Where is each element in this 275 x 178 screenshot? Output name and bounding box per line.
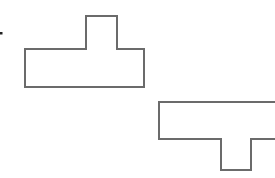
bullet-dot (0, 32, 3, 35)
t-shape-upright (25, 16, 144, 87)
t-shape-inverted (159, 102, 275, 170)
diagram-canvas (0, 0, 275, 178)
